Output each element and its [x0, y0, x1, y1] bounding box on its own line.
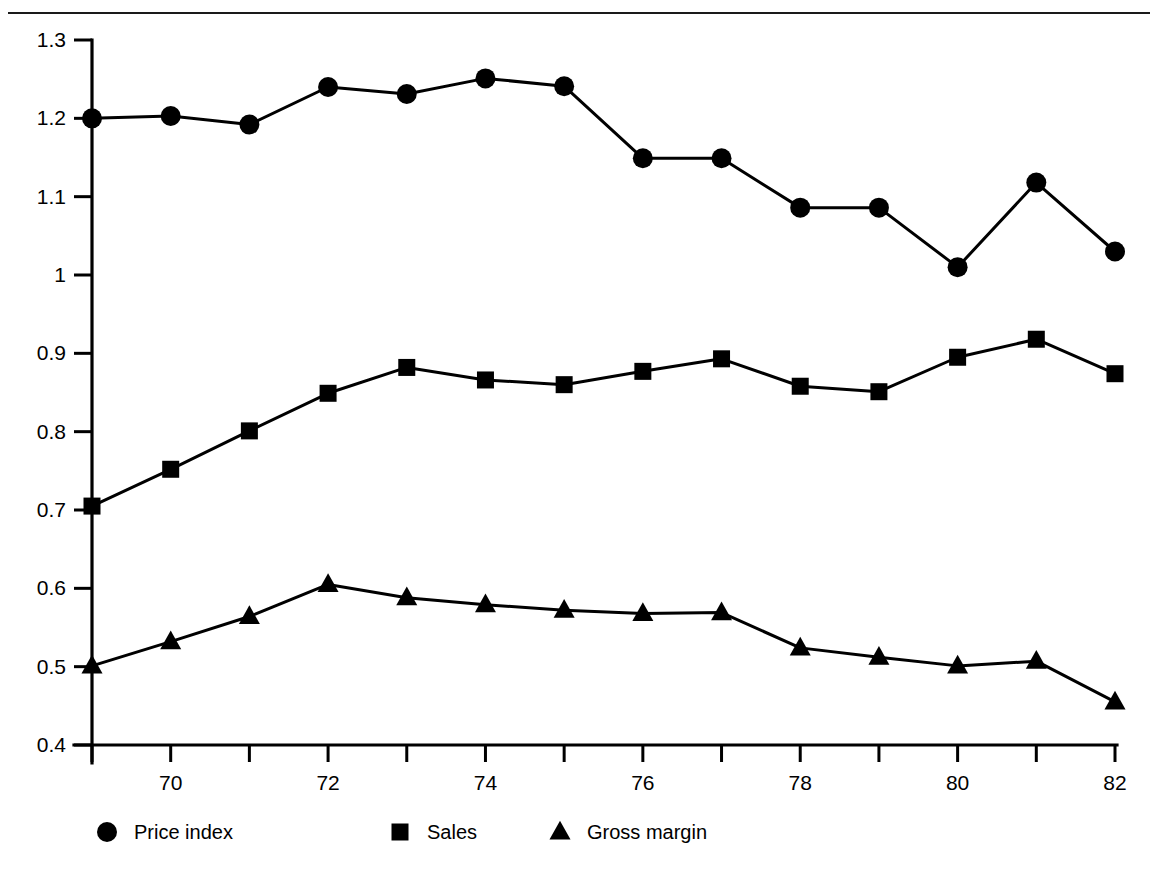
- y-axis-tick-label: 0.6: [37, 576, 66, 599]
- data-point-square: [241, 422, 258, 439]
- legend-item-label: Sales: [427, 821, 477, 843]
- data-point-circle: [475, 68, 495, 88]
- y-axis-tick-label: 0.5: [37, 655, 66, 678]
- series-sales: [84, 331, 1124, 515]
- circle-marker-icon: [97, 822, 117, 842]
- data-point-square: [398, 359, 415, 376]
- triangle-marker-icon: [550, 821, 571, 840]
- series-line-path: [92, 78, 1115, 267]
- series-layer: [82, 68, 1126, 709]
- legend-item-label: Gross margin: [587, 821, 707, 843]
- y-axis-tick-label: 0.9: [37, 341, 66, 364]
- data-point-square: [634, 363, 651, 380]
- data-point-square: [792, 378, 809, 395]
- x-axis-tick-label: 76: [631, 771, 654, 794]
- x-axis-tick-label: 82: [1103, 771, 1126, 794]
- data-point-circle: [712, 148, 732, 168]
- data-point-circle: [948, 257, 968, 277]
- legend-item-gross-margin[interactable]: Gross margin: [550, 821, 708, 843]
- legend-item-label: Price index: [134, 821, 233, 843]
- data-point-square: [477, 371, 494, 388]
- data-point-circle: [790, 198, 810, 218]
- data-point-circle: [869, 198, 889, 218]
- data-point-circle: [82, 108, 102, 128]
- data-point-square: [870, 383, 887, 400]
- x-axis-tick-label: 70: [159, 771, 182, 794]
- y-axis-tick-label: 0.4: [37, 733, 67, 756]
- y-axis-tick-label: 0.7: [37, 498, 66, 521]
- data-point-square: [1107, 365, 1124, 382]
- x-axis: 70727476788082: [74, 745, 1127, 794]
- series-line-path: [92, 584, 1115, 702]
- data-point-circle: [397, 84, 417, 104]
- data-point-square: [556, 376, 573, 393]
- square-marker-icon: [392, 824, 409, 841]
- data-point-triangle: [632, 602, 653, 621]
- data-point-square: [392, 824, 409, 841]
- data-point-circle: [633, 148, 653, 168]
- data-point-circle: [1026, 173, 1046, 193]
- legend-item-sales[interactable]: Sales: [392, 821, 478, 843]
- y-axis-tick-label: 0.8: [37, 420, 66, 443]
- chart-figure: 0.40.50.60.70.80.911.11.21.3 70727476788…: [0, 0, 1158, 892]
- data-point-square: [84, 498, 101, 515]
- series-gross-margin: [82, 573, 1126, 709]
- line-chart-plot: 0.40.50.60.70.80.911.11.21.3 70727476788…: [0, 0, 1158, 892]
- y-axis-tick-label: 1: [54, 263, 66, 286]
- x-axis-tick-label: 72: [316, 771, 339, 794]
- series-price-index: [82, 68, 1125, 277]
- data-point-triangle: [1105, 691, 1126, 710]
- x-axis-tick-label: 78: [789, 771, 812, 794]
- data-point-circle: [97, 822, 117, 842]
- data-point-square: [162, 461, 179, 478]
- data-point-square: [320, 385, 337, 402]
- y-axis-tick-label: 1.2: [37, 106, 66, 129]
- data-point-triangle: [1026, 650, 1047, 669]
- data-point-square: [713, 350, 730, 367]
- x-axis-tick-label: 74: [474, 771, 498, 794]
- data-point-triangle: [550, 821, 571, 840]
- data-point-triangle: [711, 601, 732, 620]
- data-point-square: [1028, 331, 1045, 348]
- data-point-circle: [239, 115, 259, 135]
- y-axis-tick-label: 1.3: [37, 28, 66, 51]
- x-axis-tick-label: 80: [946, 771, 969, 794]
- data-point-circle: [1105, 242, 1125, 262]
- data-point-circle: [554, 76, 574, 96]
- data-point-circle: [318, 77, 338, 97]
- data-point-triangle: [318, 573, 339, 592]
- data-point-square: [949, 349, 966, 366]
- legend-item-price-index[interactable]: Price index: [97, 821, 233, 843]
- chart-legend: Price indexSalesGross margin: [97, 821, 707, 843]
- y-axis-tick-label: 1.1: [37, 185, 66, 208]
- y-axis: 0.40.50.60.70.80.911.11.21.3: [37, 28, 92, 763]
- data-point-circle: [161, 106, 181, 126]
